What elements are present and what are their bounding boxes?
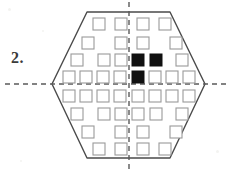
open-square[interactable] [159, 143, 171, 155]
open-square[interactable] [132, 90, 144, 102]
paper-speck [42, 30, 44, 32]
open-square[interactable] [114, 71, 126, 83]
open-square[interactable] [159, 18, 171, 30]
open-square[interactable] [63, 90, 75, 102]
open-square[interactable] [150, 108, 162, 120]
open-square[interactable] [137, 143, 149, 155]
filled-square[interactable] [132, 54, 144, 66]
open-square[interactable] [176, 108, 188, 120]
open-square[interactable] [166, 71, 178, 83]
filled-square[interactable] [150, 54, 162, 66]
open-square[interactable] [115, 108, 127, 120]
open-square[interactable] [98, 108, 110, 120]
paper-speck [8, 8, 11, 11]
open-square[interactable] [115, 37, 127, 49]
open-square[interactable] [80, 71, 92, 83]
open-square[interactable] [82, 37, 94, 49]
open-square[interactable] [115, 54, 127, 66]
open-square[interactable] [170, 126, 182, 138]
filled-square[interactable] [132, 71, 144, 83]
open-square[interactable] [98, 54, 110, 66]
open-square[interactable] [176, 54, 188, 66]
open-square[interactable] [115, 126, 127, 138]
open-square[interactable] [149, 90, 161, 102]
open-square[interactable] [63, 71, 75, 83]
open-square[interactable] [80, 90, 92, 102]
open-square[interactable] [71, 108, 83, 120]
open-square[interactable] [82, 126, 94, 138]
open-square[interactable] [183, 90, 195, 102]
open-square[interactable] [183, 71, 195, 83]
open-square[interactable] [137, 126, 149, 138]
open-square[interactable] [71, 54, 83, 66]
open-square[interactable] [170, 37, 182, 49]
open-square[interactable] [137, 18, 149, 30]
open-square[interactable] [137, 37, 149, 49]
open-square[interactable] [149, 71, 161, 83]
open-square[interactable] [114, 90, 126, 102]
hexagon-square-grid-figure [0, 0, 234, 177]
puzzle-figure-container: 2. [0, 0, 234, 177]
paper-speck [216, 150, 219, 153]
open-square[interactable] [132, 108, 144, 120]
open-square[interactable] [93, 143, 105, 155]
open-square[interactable] [93, 18, 105, 30]
open-square[interactable] [115, 143, 127, 155]
open-square[interactable] [97, 71, 109, 83]
paper-speck [20, 160, 22, 162]
open-square[interactable] [115, 18, 127, 30]
open-square[interactable] [97, 90, 109, 102]
open-square[interactable] [166, 90, 178, 102]
